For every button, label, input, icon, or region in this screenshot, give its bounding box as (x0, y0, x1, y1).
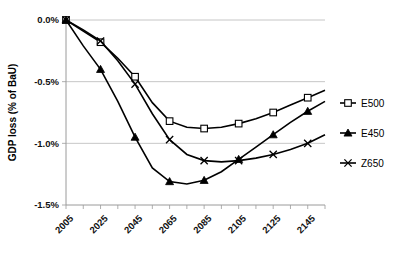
marker-open-square (166, 118, 173, 125)
y-axis-tick-labels: 0.0%-0.5%-1.0%-1.5% (34, 14, 59, 210)
y-axis-title-text: GDP loss (% of BaU) (7, 64, 18, 162)
marker-open-square (304, 94, 311, 101)
legend-label-Z650: Z650 (361, 158, 384, 169)
axes (66, 20, 325, 205)
marker-open-square (345, 100, 352, 107)
x-tick-label: 2125 (260, 212, 283, 235)
x-tick-label: 2085 (191, 212, 214, 235)
marker-filled-triangle (200, 176, 208, 183)
y-axis-title: GDP loss (% of BaU) (7, 64, 18, 162)
y-tick-label: -1.5% (34, 199, 59, 210)
series-line-E450 (66, 20, 325, 184)
marker-open-square (132, 73, 139, 80)
series-markers-E500 (63, 17, 311, 132)
legend-label-E500: E500 (361, 98, 385, 109)
tick-marks (62, 20, 325, 209)
y-tick-label: 0.0% (37, 14, 59, 25)
x-tick-label: 2005 (53, 212, 76, 235)
marker-open-square (201, 125, 208, 132)
y-tick-label: -0.5% (34, 76, 59, 87)
legend-item-E450: E450 (340, 128, 385, 139)
x-tick-label: 2065 (156, 212, 179, 235)
data-series (62, 16, 325, 185)
marker-filled-triangle (304, 107, 312, 114)
x-tick-label: 2145 (294, 212, 317, 235)
chart-canvas: 0.0%-0.5%-1.0%-1.5% 20052025204520652085… (0, 0, 416, 257)
gdp-loss-line-chart: 0.0%-0.5%-1.0%-1.5% 20052025204520652085… (0, 0, 416, 257)
legend-item-Z650: Z650 (340, 158, 384, 169)
marker-filled-triangle (131, 133, 139, 140)
series-E500 (63, 17, 325, 132)
chart-legend: E500E450Z650 (340, 98, 385, 169)
x-tick-label: 2025 (87, 212, 110, 235)
marker-open-square (235, 120, 242, 127)
legend-label-E450: E450 (361, 128, 385, 139)
series-line-E500 (66, 20, 325, 129)
marker-open-square (270, 109, 277, 116)
x-axis-tick-labels: 20052025204520652085210521252145 (53, 212, 318, 235)
series-line-Z650 (66, 20, 325, 162)
x-tick-label: 2105 (225, 212, 248, 235)
x-tick-label: 2045 (122, 212, 145, 235)
marker-x (166, 136, 173, 143)
legend-item-E500: E500 (340, 98, 385, 109)
y-tick-label: -1.0% (34, 138, 59, 149)
